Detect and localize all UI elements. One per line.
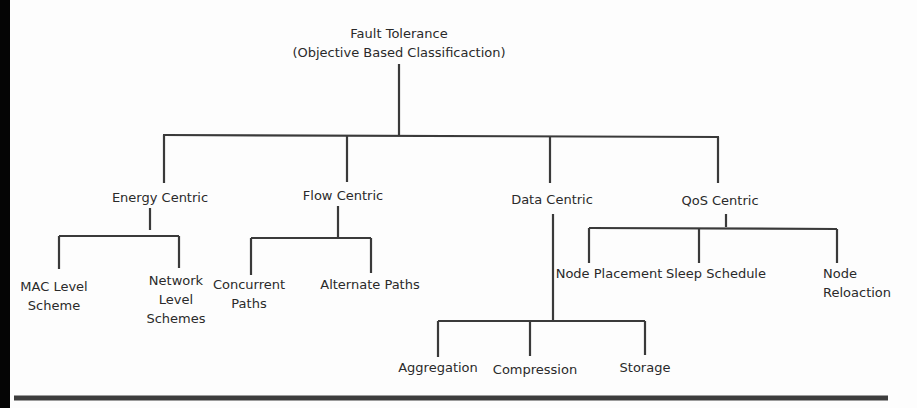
leaf-line: Level [159, 292, 193, 307]
leaf-storage: Storage [620, 360, 671, 375]
leaf-compression: Compression [493, 362, 577, 377]
leaf-alternate-paths: Alternate Paths [320, 277, 420, 292]
category-label: QoS Centric [681, 193, 758, 208]
category-data-centric: Data Centric Aggregation Compression Sto… [398, 192, 670, 377]
category-flow-centric: Flow Centric Concurrent Paths Alternate … [213, 188, 420, 311]
leaf-concurrent-paths: Concurrent Paths [213, 277, 285, 311]
leaf-network-level-schemes: Network Level Schemes [146, 273, 205, 326]
root-title: Fault Tolerance [350, 26, 447, 41]
leaf-line: Scheme [28, 298, 80, 313]
root-node: Fault Tolerance (Objective Based Classif… [292, 26, 505, 60]
qos-bar [589, 228, 837, 229]
category-label: Data Centric [511, 192, 593, 207]
category-qos-centric: QoS Centric Node Placement Sleep Schedul… [556, 193, 891, 300]
leaf-sleep-schedule: Sleep Schedule [666, 266, 766, 281]
leaf-line: Schemes [146, 311, 205, 326]
leaf-line: Alternate Paths [320, 277, 420, 292]
fault-tolerance-diagram: Fault Tolerance (Objective Based Classif… [0, 0, 917, 408]
leaf-line: Reloaction [823, 285, 891, 300]
leaf-line: Paths [231, 296, 267, 311]
root-subtitle: (Objective Based Classificaction) [292, 45, 505, 60]
category-energy-centric: Energy Centric MAC Level Scheme Network … [20, 190, 208, 326]
leaf-line: MAC Level [20, 279, 87, 294]
leaf-line: Network [149, 273, 204, 288]
leaf-aggregation: Aggregation [398, 360, 478, 375]
leaf-node-reloaction: Node Reloaction [823, 266, 891, 300]
leaf-line: Concurrent [213, 277, 285, 292]
category-label: Flow Centric [303, 188, 383, 203]
leaf-node-placement: Node Placement [556, 266, 663, 281]
category-label: Energy Centric [112, 190, 208, 205]
leaf-line: Node [823, 266, 857, 281]
root-bar [163, 135, 719, 137]
leaf-mac-level-scheme: MAC Level Scheme [20, 279, 87, 313]
root-connectors [163, 64, 719, 183]
tree-svg: Fault Tolerance (Objective Based Classif… [0, 0, 917, 408]
